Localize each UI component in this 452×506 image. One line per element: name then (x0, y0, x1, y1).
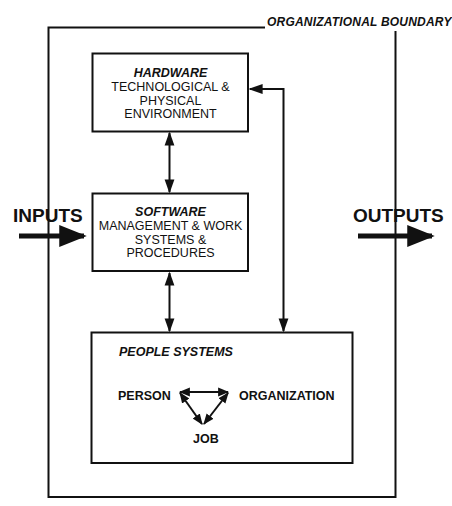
software-line: SYSTEMS & (93, 234, 248, 248)
hardware-line: PHYSICAL (93, 95, 248, 109)
job-node: JOB (193, 433, 219, 446)
inputs-label: INPUTS (13, 206, 83, 225)
software-text: SOFTWARE MANAGEMENT & WORK SYSTEMS & PRO… (93, 206, 248, 261)
software-title: SOFTWARE (93, 206, 248, 220)
organizational-boundary-label: ORGANIZATIONAL BOUNDARY (267, 16, 452, 28)
hardware-title: HARDWARE (93, 67, 248, 81)
hardware-people-arrow (250, 89, 284, 331)
hardware-line: ENVIRONMENT (93, 108, 248, 122)
hardware-text: HARDWARE TECHNOLOGICAL & PHYSICAL ENVIRO… (93, 67, 248, 122)
people-systems-title: PEOPLE SYSTEMS (119, 346, 233, 359)
software-line: PROCEDURES (93, 247, 248, 261)
software-line: MANAGEMENT & WORK (93, 220, 248, 234)
person-node: PERSON (118, 390, 171, 403)
hardware-line: TECHNOLOGICAL & (93, 81, 248, 95)
outputs-label: OUTPUTS (353, 206, 444, 225)
organization-node: ORGANIZATION (239, 390, 335, 403)
